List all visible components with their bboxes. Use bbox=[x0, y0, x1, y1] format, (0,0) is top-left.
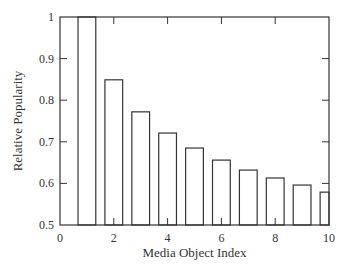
x-tick-label: 6 bbox=[218, 231, 224, 245]
y-tick-label: 0.9 bbox=[39, 52, 54, 66]
x-tick-label: 10 bbox=[323, 231, 335, 245]
bar bbox=[159, 133, 177, 225]
bar bbox=[132, 112, 150, 225]
x-tick-label: 0 bbox=[57, 231, 63, 245]
bar bbox=[78, 17, 96, 225]
y-tick-label: 0.5 bbox=[39, 218, 54, 232]
x-tick-label: 8 bbox=[272, 231, 278, 245]
y-tick-label: 0.8 bbox=[39, 93, 54, 107]
bar bbox=[266, 178, 284, 225]
bar bbox=[293, 185, 311, 225]
x-axis-label: Media Object Index bbox=[143, 245, 247, 260]
x-tick-label: 4 bbox=[165, 231, 171, 245]
bar bbox=[213, 160, 231, 225]
bar bbox=[239, 170, 257, 225]
y-tick-label: 0.7 bbox=[39, 135, 54, 149]
bar bbox=[105, 80, 123, 225]
bar-chart: 0246810 0.50.60.70.80.91 Media Object In… bbox=[0, 0, 353, 273]
y-axis-label: Relative Popularity bbox=[10, 70, 25, 171]
bar bbox=[186, 148, 204, 225]
bar bbox=[320, 192, 329, 225]
y-tick-label: 1 bbox=[48, 10, 54, 24]
x-tick-label: 2 bbox=[111, 231, 117, 245]
y-tick-label: 0.6 bbox=[39, 176, 54, 190]
bars-group bbox=[78, 17, 329, 225]
